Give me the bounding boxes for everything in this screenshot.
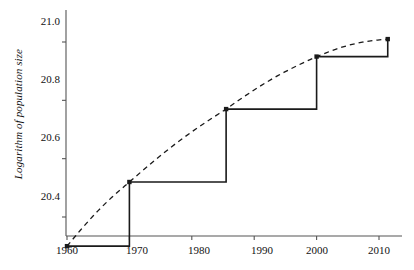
chart-plot-area	[0, 0, 414, 270]
chart-figure: Logarithm of population size 21.0 20.8 2…	[0, 0, 414, 270]
data-point-4	[386, 37, 390, 41]
data-point-markers	[65, 37, 390, 248]
x-axis-ticks	[67, 236, 379, 240]
interpolated-trend-line	[67, 39, 388, 246]
census-step-line	[67, 39, 388, 246]
data-point-1	[127, 180, 131, 184]
data-point-2	[224, 107, 228, 111]
data-point-3	[314, 54, 318, 58]
data-point-0	[65, 244, 69, 248]
y-axis-ticks	[62, 42, 66, 217]
